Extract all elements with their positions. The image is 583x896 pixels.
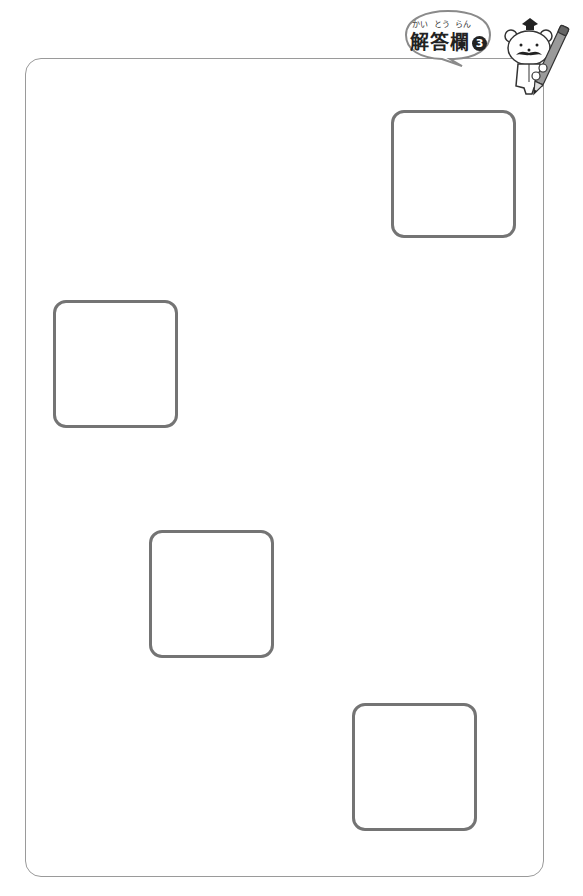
answer-box-4[interactable] [352, 703, 477, 831]
title-text: 解答欄 [410, 31, 470, 53]
answer-box-1[interactable] [391, 110, 516, 238]
answer-box-3[interactable] [149, 530, 274, 658]
answer-box-2[interactable] [53, 300, 178, 428]
section-number-badge: 3 [472, 36, 487, 51]
title-speech-bubble: かい とう らん 解答欄3 [398, 8, 492, 60]
page-title: 解答欄3 [410, 27, 487, 54]
bear-with-pencil-icon [496, 12, 576, 104]
